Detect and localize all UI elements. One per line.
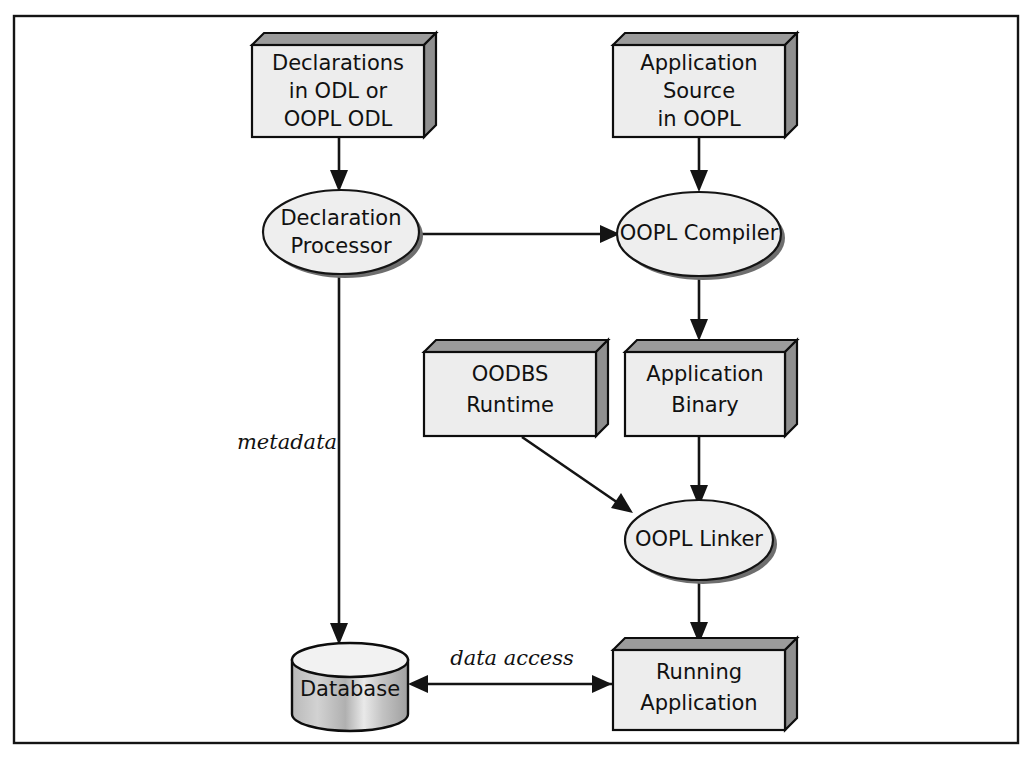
node-oodbs-runtime-line1: OODBS	[472, 362, 549, 386]
edge-runtime-to-linker	[522, 437, 633, 513]
node-application-binary[interactable]: Application Binary	[625, 340, 797, 436]
node-declarations[interactable]: Declarations in ODL or OOPL ODL	[252, 33, 436, 137]
node-declaration-processor[interactable]: Declaration Processor	[263, 190, 423, 278]
node-application-source[interactable]: Application Source in OOPL	[613, 33, 797, 137]
edge-declarations-to-processor	[330, 136, 348, 192]
node-running-application-line2: Application	[640, 691, 757, 715]
node-database-label: Database	[300, 677, 400, 701]
node-running-application[interactable]: Running Application	[613, 638, 797, 730]
node-oodbs-runtime[interactable]: OODBS Runtime	[424, 340, 608, 436]
node-application-source-line2: Source	[663, 79, 735, 103]
arrow-head-icon	[330, 170, 348, 192]
arrow-head-icon	[330, 623, 348, 645]
node-oodbs-runtime-line2: Runtime	[466, 393, 554, 417]
diagram-canvas: metadata data access D	[0, 0, 1032, 760]
diagram-root: metadata data access D	[0, 0, 1032, 760]
node-running-application-line1: Running	[656, 660, 742, 684]
edge-linker-to-runningapp	[690, 578, 708, 644]
node-declaration-processor-line1: Declaration	[280, 206, 401, 230]
node-oopl-compiler-label: OOPL Compiler	[620, 221, 779, 245]
edge-label-metadata: metadata	[237, 430, 337, 454]
node-oopl-linker-label: OOPL Linker	[635, 527, 763, 551]
node-oopl-compiler[interactable]: OOPL Compiler	[617, 192, 785, 280]
node-application-binary-line2: Binary	[671, 393, 738, 417]
node-declarations-line3: OOPL ODL	[284, 107, 393, 131]
edge-processor-to-database: metadata	[237, 272, 348, 645]
node-application-binary-line1: Application	[646, 362, 763, 386]
node-oopl-linker[interactable]: OOPL Linker	[625, 500, 777, 584]
node-application-source-line3: in OOPL	[657, 107, 741, 131]
arrow-head-icon	[690, 170, 708, 192]
edge-label-data-access: data access	[450, 646, 574, 670]
arrow-head-icon	[592, 675, 612, 693]
node-declaration-processor-line2: Processor	[290, 234, 392, 258]
node-declarations-line1: Declarations	[272, 51, 404, 75]
arrow-head-icon	[611, 493, 633, 513]
edge-binary-to-linker	[690, 437, 708, 507]
node-database[interactable]: Database	[292, 643, 408, 731]
arrow-head-icon	[408, 675, 428, 693]
edge-appsource-to-compiler	[690, 136, 708, 192]
edge-runningapp-to-database: data access	[408, 646, 612, 694]
edge-processor-to-compiler	[420, 225, 620, 243]
node-application-source-line1: Application	[640, 51, 757, 75]
edge-compiler-to-binary	[690, 276, 708, 341]
arrow-head-icon	[690, 319, 708, 341]
node-declarations-line2: in ODL or	[289, 79, 388, 103]
edge-database-access-arrowhead	[592, 675, 612, 693]
